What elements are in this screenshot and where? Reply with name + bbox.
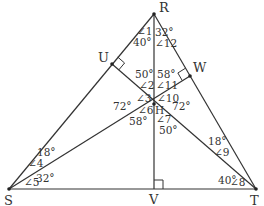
triangle-diagram: RSTUWV ∠140°32°∠1250°∠258°∠11∠3∠1072°72°… [0,0,264,206]
angle-label: ∠11 [156,79,178,91]
angle-label: ∠4 [28,157,44,169]
right-angle-marker-V [154,180,163,189]
angle-labels: ∠140°32°∠1250°∠258°∠11∠3∠1072°72°∠6H58°∠… [24,25,245,188]
vertex-label-T: T [250,193,259,206]
point-W [188,74,192,78]
angle-label: 58° [129,115,148,127]
angle-label: 50° [159,124,178,136]
angle-label: 40° [133,36,152,48]
vertex-label-U: U [98,50,109,65]
point-T [254,187,258,191]
angle-label: ∠9 [214,146,229,158]
vertex-label-S: S [4,193,13,206]
angle-label: ∠3 [136,92,151,104]
vertex-label-V: V [148,192,159,206]
angle-label: 32° [36,172,55,184]
angle-label: ∠2 [139,79,154,91]
angle-label: ∠12 [155,37,177,49]
right-angle-marker-U [118,57,125,70]
angle-label: ∠8 [230,176,245,188]
point-S [7,187,11,191]
vertex-label-W: W [193,60,207,75]
angle-label: 72° [113,100,132,112]
angle-label: 72° [172,100,191,112]
vertex-label-R: R [159,0,170,15]
point-R [152,12,156,16]
point-U [110,62,114,66]
